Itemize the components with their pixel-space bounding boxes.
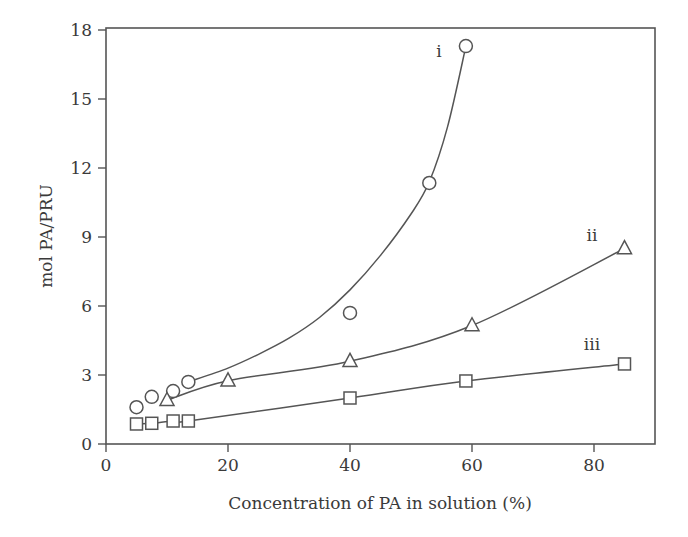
x-axis-label: Concentration of PA in solution (%) (228, 493, 532, 513)
circle-marker (423, 176, 436, 189)
x-tick-label: 40 (339, 455, 361, 475)
y-axis-label: mol PA/PRU (36, 184, 56, 288)
circle-marker (145, 390, 158, 403)
fit-curve-ii (167, 249, 625, 401)
series-label-i: i (436, 41, 442, 61)
circle-marker (130, 401, 143, 414)
x-tick-label: 20 (217, 455, 239, 475)
y-tick-label: 15 (70, 89, 92, 109)
y-tick-label: 0 (81, 434, 92, 454)
x-tick-label: 0 (101, 455, 112, 475)
triangle-marker (618, 241, 632, 254)
square-marker (146, 417, 158, 429)
circle-marker (459, 40, 472, 53)
square-marker (131, 418, 143, 430)
y-tick-label: 12 (70, 158, 92, 178)
series-label-ii: ii (587, 225, 598, 245)
x-tick-label: 60 (461, 455, 483, 475)
square-marker (344, 392, 356, 404)
y-tick-label: 6 (81, 296, 92, 316)
fit-curves (137, 46, 625, 424)
y-tick-label: 3 (81, 365, 92, 385)
fit-curve-iii (137, 364, 625, 424)
circle-marker (182, 375, 195, 388)
chart-canvas: 0204060800369121518 Concentration of PA … (0, 0, 688, 537)
square-marker (182, 415, 194, 427)
y-tick-label: 9 (81, 227, 92, 247)
square-marker (167, 415, 179, 427)
axis-ticks: 0204060800369121518 (70, 20, 604, 475)
series-label-iii: iii (584, 334, 601, 354)
x-tick-label: 80 (583, 455, 605, 475)
square-marker (460, 375, 472, 387)
circle-marker (344, 306, 357, 319)
y-tick-label: 18 (70, 20, 92, 40)
square-marker (619, 358, 631, 370)
chart-labels: Concentration of PA in solution (%) mol … (36, 41, 601, 513)
fit-curve-i (188, 46, 466, 382)
